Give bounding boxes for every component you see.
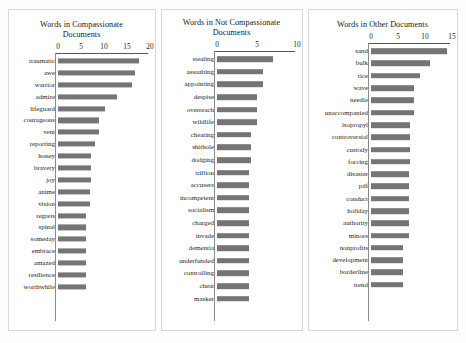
category-label: rice <box>313 72 371 80</box>
bar-track <box>58 210 150 222</box>
category-label: bravery <box>13 164 58 172</box>
category-label: assaulting <box>166 68 217 76</box>
bar <box>371 85 414 91</box>
bar <box>371 134 410 140</box>
x-tick-label: 10 <box>100 42 107 51</box>
bar <box>58 142 95 147</box>
bar <box>58 153 91 158</box>
category-label: dodging <box>166 156 217 164</box>
bar-track <box>58 281 150 293</box>
bar <box>58 118 99 123</box>
category-label: needle <box>313 96 371 104</box>
bar-row: disaster <box>313 168 452 180</box>
category-label: controversial <box>313 133 371 141</box>
bar-row: cheating <box>166 129 297 142</box>
bar-row: masker <box>166 292 297 305</box>
bar-row: unaccompanied <box>313 106 452 118</box>
bar-track <box>371 131 452 143</box>
bar-track <box>58 91 150 103</box>
bar-track <box>217 280 297 293</box>
bar-row: nonprofits <box>313 242 452 254</box>
bar-track <box>371 168 452 180</box>
bar-track <box>217 179 297 192</box>
bar <box>217 208 249 214</box>
x-tick-label: 5 <box>255 40 259 49</box>
bar <box>58 177 91 182</box>
bar <box>58 225 86 230</box>
category-label: authority <box>313 219 371 227</box>
x-tick-label: 0 <box>369 32 373 41</box>
bar-row: holiday <box>313 205 452 217</box>
bar-track <box>58 114 150 126</box>
bar-track <box>58 174 150 186</box>
category-label: socialism <box>166 206 217 214</box>
category-label: embrace <box>13 247 58 255</box>
bar <box>58 165 91 170</box>
plot-top-rule <box>214 51 295 52</box>
category-label: cheat <box>166 282 217 290</box>
bar-row: cheat <box>166 280 297 293</box>
bar-row: resilience <box>13 269 150 281</box>
x-axis-ticks-other: 051015 <box>371 32 452 43</box>
bar <box>371 61 430 67</box>
bar-row: regrets <box>13 210 150 222</box>
bar-track <box>217 91 297 104</box>
bar <box>371 110 414 116</box>
bar-row: admire <box>13 91 150 103</box>
bar <box>371 48 447 54</box>
y-axis-line <box>55 53 56 321</box>
category-label: honey <box>13 152 58 160</box>
bar-row: vision <box>13 198 150 210</box>
bar-track <box>217 129 297 142</box>
bar-track <box>217 154 297 167</box>
x-tick-label: 15 <box>123 42 130 51</box>
bar-row: rice <box>313 70 452 82</box>
x-tick-label: 5 <box>396 32 400 41</box>
bar-row: spinal <box>13 221 150 233</box>
bar-track <box>58 67 150 79</box>
bar <box>58 189 90 194</box>
bar-row: minors <box>313 229 452 241</box>
category-label: wildlife <box>166 118 217 126</box>
bar-row: trillion <box>166 166 297 179</box>
category-label: borderline <box>313 268 371 276</box>
bar-track <box>58 221 150 233</box>
plot-area-compassionate: 05101520 traumaticawewarrioradmirelifegu… <box>13 42 150 323</box>
bar <box>58 260 86 265</box>
category-label: admire <box>13 93 58 101</box>
category-label: dementia <box>166 244 217 252</box>
x-tick-label: 15 <box>448 32 455 41</box>
bar <box>371 270 403 276</box>
bar-track <box>371 143 452 155</box>
bar <box>217 94 257 100</box>
bar <box>217 271 249 277</box>
category-label: worthwhile <box>13 283 58 291</box>
category-label: despise <box>166 93 217 101</box>
category-label: masker <box>166 295 217 303</box>
bar-track <box>217 116 297 129</box>
category-label: charged <box>166 219 217 227</box>
bar-track <box>217 267 297 280</box>
bar <box>371 257 403 263</box>
chart-title-line1: Words in Not Compassionate <box>183 18 280 27</box>
category-label: joy <box>13 176 58 184</box>
bar <box>58 94 117 99</box>
x-tick-label: 20 <box>146 42 153 51</box>
bar <box>217 69 263 75</box>
x-tick-label: 0 <box>56 42 60 51</box>
bar-track <box>217 242 297 255</box>
category-label: incompetent <box>166 194 217 202</box>
bar-track <box>217 166 297 179</box>
bar-track <box>371 70 452 82</box>
bar <box>58 201 90 206</box>
bar-row: bulk <box>313 57 452 69</box>
bar-track <box>217 66 297 79</box>
bar-row: borderline <box>313 266 452 278</box>
bar-row: development <box>313 254 452 266</box>
bar-row: dodging <box>166 154 297 167</box>
bar <box>58 106 105 111</box>
bar-row: awe <box>13 67 150 79</box>
bar-row: dementia <box>166 242 297 255</box>
bar-track <box>217 292 297 305</box>
category-label: stealing <box>166 55 217 63</box>
